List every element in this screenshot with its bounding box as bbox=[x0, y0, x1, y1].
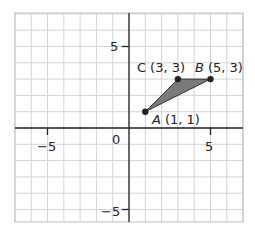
y-tick-label-5: 5 bbox=[110, 39, 118, 54]
label-point-c: C(3, 3) bbox=[137, 60, 185, 75]
origin-label: 0 bbox=[112, 132, 120, 147]
axes bbox=[15, 13, 243, 222]
point-b bbox=[207, 76, 213, 82]
point-c bbox=[175, 76, 181, 82]
y-tick-label-neg5: −5 bbox=[101, 204, 120, 219]
point-a bbox=[142, 109, 148, 115]
label-point-b: B(5, 3) bbox=[195, 60, 243, 75]
x-tick-label-neg5: −5 bbox=[37, 139, 56, 154]
label-point-a: A(1, 1) bbox=[151, 112, 200, 127]
x-tick-label-5: 5 bbox=[205, 139, 213, 154]
coordinate-plane: A(1, 1) B(5, 3) C(3, 3) 0 −5 5 5 −5 bbox=[0, 0, 255, 229]
